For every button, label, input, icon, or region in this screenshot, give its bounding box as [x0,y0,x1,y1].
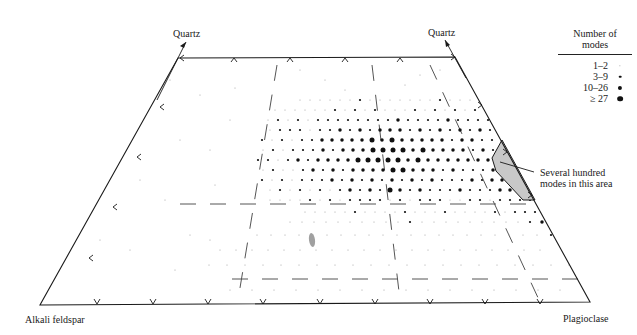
vertex-label-plagioclase: Plagioclase [563,313,609,324]
mode-dot [369,99,370,100]
mode-dot [414,211,415,212]
mode-dot [421,179,423,181]
mode-dot [311,168,315,172]
mode-dot [514,211,516,213]
tick-mark [397,58,403,62]
mode-dots [99,69,569,290]
mode-dot [326,234,327,235]
edge-ticks [89,54,543,304]
mode-dot [430,178,434,182]
mode-dot [299,129,301,131]
tick-mark [537,299,543,304]
mode-dot [381,148,386,153]
mode-dot [319,189,321,191]
mode-dot [315,249,316,250]
mode-dot [321,179,323,181]
mode-dot [536,234,537,235]
mode-dot [214,184,215,185]
mode-dot [267,159,269,161]
mode-dot [261,139,263,141]
mode-dot [474,211,475,212]
mode-dot [321,148,325,152]
mode-dot [479,199,481,201]
mode-dot [438,234,439,235]
mode-dot [550,264,551,265]
mode-dot [461,148,465,152]
mode-dot [229,289,230,290]
mode-dot [359,199,361,201]
mode-dot [457,119,459,121]
mode-dot [350,138,354,142]
vertex-label-quartz-left: Quartz [173,28,200,39]
mode-dot [409,129,411,131]
mode-dot [508,188,512,192]
mode-dot [283,249,284,250]
mode-dot [491,168,495,172]
dashed-boundary [372,65,400,300]
mode-dot [292,149,294,151]
mode-dot [360,138,364,142]
mode-dot [389,99,390,100]
mode-dot [464,109,465,110]
legend-title-line-1: Number of [556,28,634,39]
mode-dot [316,264,317,265]
mode-dot [307,119,308,120]
mode-dot [559,289,560,290]
mode-dot [234,87,235,88]
mode-dot [337,221,338,222]
tick-mark [287,58,293,62]
mode-dot [164,199,165,200]
mode-dot [299,69,300,70]
mode-dot [296,158,300,162]
mode-dot [281,139,283,141]
legend-entry-label: ≥ 27 [568,93,608,104]
mode-dot [302,169,304,171]
mode-dot [324,211,325,212]
mode-dot [396,158,401,163]
mode-dot [451,148,455,152]
mode-dot [280,264,281,265]
mode-dot [329,129,331,131]
mode-dot [209,239,210,240]
mode-dot [440,138,444,142]
dashed-boundary [238,65,277,300]
mode-dot [284,109,285,110]
legend-entries: 1–23–910–26≥ 27 [556,60,634,104]
mode-dot [445,221,446,222]
mode-dot [434,109,436,111]
mode-dot [444,211,446,213]
mode-dot [374,211,375,212]
mode-dot [390,178,394,182]
mode-dot [301,221,302,222]
mode-dot [311,179,313,181]
mode-dot [331,168,335,172]
mode-dot [489,189,491,191]
legend-divider [558,54,632,55]
mode-dot [419,199,421,201]
mode-dot [416,158,421,163]
mode-dot [539,249,540,250]
mode-dot [359,99,361,101]
mode-dot [297,119,299,121]
mode-dot [451,168,455,172]
mode-dot [348,188,352,192]
mode-dot [341,179,343,181]
mode-dot [459,199,460,200]
mode-dot [282,149,283,150]
mode-dot [304,109,305,110]
mode-dot [384,109,385,110]
mode-dot [366,158,371,163]
mode-dot [459,99,460,100]
mode-dot [394,109,395,110]
mode-dot [334,109,336,111]
mode-dot [269,199,270,200]
mode-dot [431,168,435,172]
mode-dot [314,109,315,110]
mode-dot [389,199,390,200]
mode-dot [401,179,403,181]
mode-dot [482,169,484,171]
mode-dot [398,128,402,132]
mode-dot [363,249,364,250]
mode-dot [460,264,461,265]
legend-title-line-2: modes [556,39,634,50]
